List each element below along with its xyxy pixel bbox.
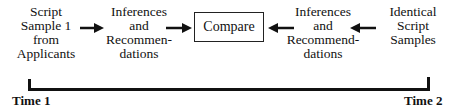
node-line: Recommen-: [104, 33, 174, 47]
node-line: Script: [6, 5, 86, 19]
arrow-left-icon: [350, 22, 376, 34]
script-sample-1-node: Script Sample 1 from Applicants: [6, 5, 86, 61]
time-2-label: Time 2: [404, 93, 442, 109]
node-line: Inferences: [104, 5, 174, 19]
node-line: dations: [284, 47, 362, 61]
node-line: dations: [104, 47, 174, 61]
node-line: Inferences: [284, 5, 362, 19]
node-line: Identical: [378, 5, 448, 19]
node-line: Script: [378, 19, 448, 33]
node-line: and: [104, 19, 174, 33]
arrow-right-icon: [166, 22, 192, 34]
arrow-right-icon: [80, 22, 104, 34]
node-line: Applicants: [6, 47, 86, 61]
node-line: Recommend-: [284, 33, 362, 47]
compare-box: Compare: [194, 12, 264, 42]
node-line: from: [6, 33, 86, 47]
time-1-label: Time 1: [12, 93, 50, 109]
timeline-axis: [28, 88, 430, 91]
timeline-right-tick: [427, 77, 430, 90]
identical-script-samples-node: Identical Script Samples: [378, 5, 448, 47]
node-line: Sample 1: [6, 19, 86, 33]
node-line: Samples: [378, 33, 448, 47]
left-inferences-node: Inferences and Recommen- dations: [104, 5, 174, 61]
compare-label: Compare: [203, 19, 254, 35]
